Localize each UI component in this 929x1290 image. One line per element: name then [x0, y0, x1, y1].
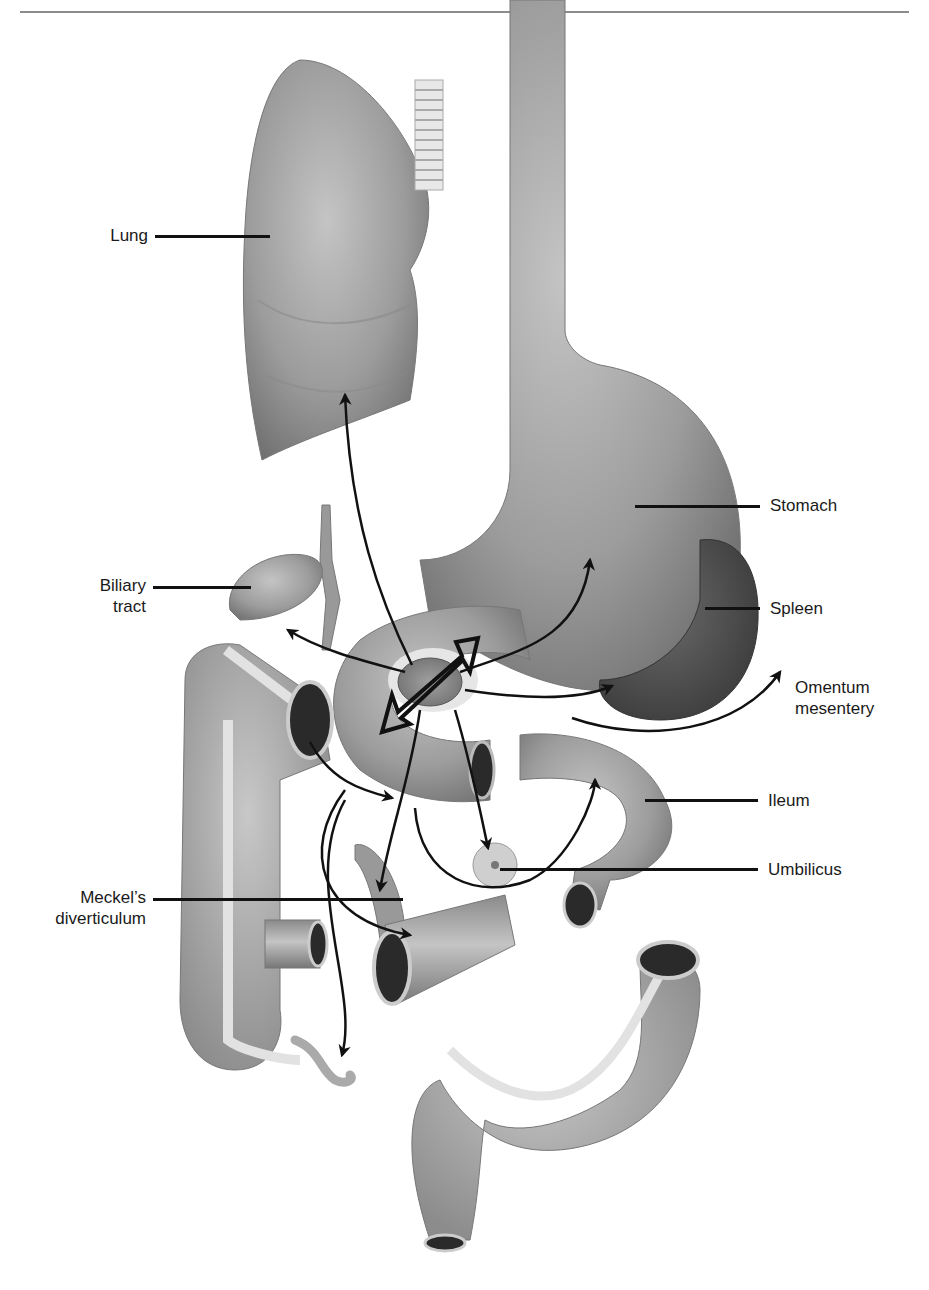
biliary-tract-organ — [229, 505, 340, 650]
umbilicus-organ — [473, 843, 517, 887]
leader-line-ileum — [645, 799, 758, 802]
label-omentum-line2: mesentery — [795, 698, 874, 719]
label-spleen: Spleen — [770, 598, 823, 619]
leader-line-lung — [155, 235, 270, 238]
ascending-colon — [180, 644, 351, 1082]
label-meckels-diverticulum: Meckel’s diverticulum — [45, 887, 146, 929]
stomach-organ — [420, 0, 740, 691]
leader-line-meckels — [153, 898, 403, 901]
leader-line-stomach — [635, 505, 760, 508]
label-biliary-line1: Biliary — [70, 575, 146, 596]
ileum-organ — [520, 734, 672, 927]
label-omentum-line1: Omentum — [795, 677, 874, 698]
arrow-to-appendix — [328, 800, 346, 1055]
label-omentum-mesentery: Omentum mesentery — [795, 677, 874, 719]
leader-line-spleen — [705, 607, 760, 610]
sigmoid-colon — [412, 942, 700, 1251]
label-ileum: Ileum — [768, 790, 810, 811]
trachea — [415, 80, 443, 190]
label-meckel-line2: diverticulum — [45, 908, 146, 929]
label-biliary-line2: tract — [70, 596, 146, 617]
label-biliary-tract: Biliary tract — [70, 575, 146, 617]
leader-line-biliary-tract — [153, 586, 251, 589]
label-lung: Lung — [88, 225, 148, 246]
label-meckel-line1: Meckel’s — [45, 887, 146, 908]
leader-line-umbilicus — [500, 868, 758, 871]
label-stomach: Stomach — [770, 495, 837, 516]
label-umbilicus: Umbilicus — [768, 859, 842, 880]
anatomy-illustration — [0, 0, 929, 1290]
lung-organ — [243, 60, 443, 460]
